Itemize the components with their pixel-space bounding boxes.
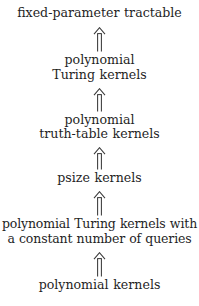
node-line: polynomial — [1, 53, 198, 68]
diagram-node-polynomial-truth-table-kernels: polynomial truth-table kernels — [1, 113, 198, 143]
node-line: polynomial — [1, 113, 198, 128]
node-line: psize kernels — [1, 171, 198, 186]
node-line: Turing kernels — [1, 68, 198, 83]
diagram-node-polynomial-turing-kernels-constant-queries: polynomial Turing kernels with a constan… — [1, 217, 198, 247]
diagram-node-polynomial-kernels: polynomial kernels — [1, 278, 198, 293]
hierarchy-diagram: fixed-parameter tractable polynomial Tur… — [0, 0, 199, 306]
node-line: polynomial kernels — [1, 278, 198, 293]
diagram-node-polynomial-turing-kernels: polynomial Turing kernels — [1, 53, 198, 83]
node-line: a constant number of queries — [1, 232, 198, 247]
double-up-arrow-icon — [0, 146, 199, 171]
diagram-node-psize-kernels: psize kernels — [1, 171, 198, 186]
double-up-arrow-icon — [0, 26, 199, 53]
diagram-node-fpt: fixed-parameter tractable — [1, 6, 198, 21]
node-line: fixed-parameter tractable — [1, 6, 198, 21]
node-line: polynomial Turing kernels with — [1, 217, 198, 232]
double-up-arrow-icon — [0, 87, 199, 113]
node-line: truth-table kernels — [1, 127, 198, 142]
double-up-arrow-icon — [0, 190, 199, 217]
double-up-arrow-icon — [0, 251, 199, 278]
